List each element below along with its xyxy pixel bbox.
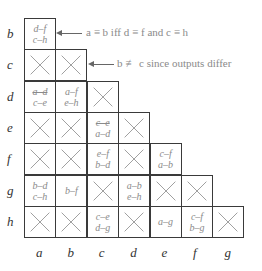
implied-pair: c–f — [182, 212, 212, 222]
row-label-g: g — [7, 183, 14, 199]
implied-pair: b–d — [25, 181, 55, 191]
cell-f-e: c–fa–b — [150, 143, 182, 175]
implied-pair: a–d — [25, 87, 55, 97]
col-label-f: f — [193, 245, 197, 261]
cell-g-d: a–be–h — [118, 175, 150, 207]
row-label-f: f — [7, 151, 11, 167]
implied-pair: b–g — [182, 223, 212, 233]
implied-pair: c–h — [25, 192, 55, 202]
cell-e-d — [118, 112, 150, 144]
cell-f-c: e–fb–d — [87, 143, 119, 175]
implied-pair: d–g — [88, 223, 118, 233]
cell-e-b — [55, 112, 87, 144]
cell-g-b: b–f — [55, 175, 87, 207]
cell-h-c: c–ed–g — [87, 206, 119, 238]
col-label-g: g — [224, 245, 231, 261]
arrowhead-ab-icon — [56, 30, 62, 36]
row-label-d: d — [7, 89, 14, 105]
x-mark-icon — [25, 144, 55, 174]
annotation-ab: a ≡ b iff d ≡ f and c ≡ h — [86, 26, 188, 38]
x-mark-icon — [56, 207, 86, 237]
implied-pair: e–h — [56, 98, 86, 108]
cell-g-e — [150, 175, 182, 207]
implied-pair: a–b — [119, 181, 149, 191]
cell-d-b: a–fe–h — [55, 81, 87, 113]
x-mark-icon — [25, 207, 55, 237]
col-label-d: d — [130, 245, 137, 261]
x-mark-icon — [56, 50, 86, 80]
cell-h-g — [212, 206, 244, 238]
x-mark-icon — [151, 176, 181, 206]
cell-g-a: b–dc–h — [24, 175, 56, 207]
row-label-h: h — [7, 214, 14, 230]
cell-c-b — [55, 49, 87, 81]
row-label-c: c — [7, 57, 13, 73]
cell-h-f: c–fb–g — [181, 206, 213, 238]
implied-pair: c–h — [25, 35, 55, 45]
x-mark-icon — [25, 50, 55, 80]
implied-pair: d–f — [25, 24, 55, 34]
cell-f-a — [24, 143, 56, 175]
cell-h-e: a–g — [150, 206, 182, 238]
cell-d-a: a–dc–e — [24, 81, 56, 113]
implied-pair: e–h — [119, 192, 149, 202]
x-mark-icon — [213, 207, 243, 237]
x-mark-icon — [182, 176, 212, 206]
implied-pair: a–b — [151, 160, 181, 170]
cell-c-a — [24, 49, 56, 81]
cell-e-a — [24, 112, 56, 144]
arrowhead-bc-icon — [88, 61, 94, 67]
row-label-e: e — [7, 120, 13, 136]
implied-pair: b–f — [56, 186, 86, 196]
x-mark-icon — [119, 207, 149, 237]
implied-pair: e–f — [88, 149, 118, 159]
x-mark-icon — [119, 113, 149, 143]
x-mark-icon — [119, 144, 149, 174]
implied-pair: c–e — [25, 98, 55, 108]
cell-e-c: c–ea–d — [87, 112, 119, 144]
x-mark-icon — [56, 113, 86, 143]
row-label-b: b — [7, 26, 14, 42]
implied-pair: a–d — [88, 129, 118, 139]
col-label-b: b — [67, 245, 74, 261]
col-label-a: a — [36, 245, 43, 261]
implied-pair: a–g — [151, 217, 181, 227]
implied-pair: c–f — [151, 149, 181, 159]
col-label-c: c — [99, 245, 105, 261]
implied-pair: a–f — [56, 87, 86, 97]
cell-b-a: d–fc–h — [24, 18, 56, 50]
x-mark-icon — [25, 113, 55, 143]
x-mark-icon — [88, 176, 118, 206]
cell-h-b — [55, 206, 87, 238]
cell-f-b — [55, 143, 87, 175]
implied-pair: b–d — [88, 160, 118, 170]
x-mark-icon — [88, 82, 118, 112]
cell-d-c — [87, 81, 119, 113]
cell-f-d — [118, 143, 150, 175]
col-label-e: e — [162, 245, 168, 261]
implied-pair: c–e — [88, 118, 118, 128]
annotation-bc: b ≢ c since outputs differ — [117, 57, 231, 69]
cell-g-f — [181, 175, 213, 207]
implied-pair: c–e — [88, 212, 118, 222]
cell-h-d — [118, 206, 150, 238]
cell-h-a — [24, 206, 56, 238]
x-mark-icon — [56, 144, 86, 174]
cell-g-c — [87, 175, 119, 207]
